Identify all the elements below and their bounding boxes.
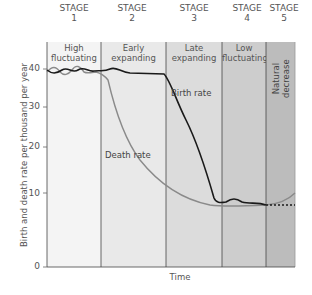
birth-rate-line	[47, 68, 266, 205]
y-ticks	[43, 69, 47, 267]
chart-plot	[0, 0, 312, 295]
stage-dividers	[47, 42, 295, 267]
death-rate-label: Death rate	[105, 150, 151, 160]
birth-rate-label: Birth rate	[171, 88, 211, 98]
